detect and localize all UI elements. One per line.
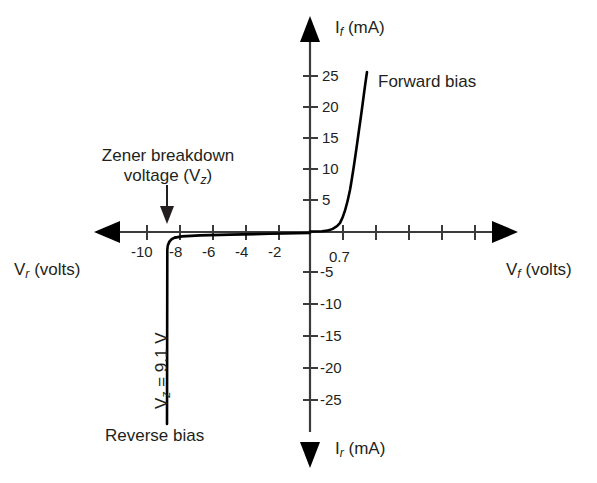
iv-plot-canvas [0,0,597,483]
y-tick-label-minus-20: -20 [320,359,342,377]
y-tick-label-minus-15: -15 [320,327,342,345]
x-tick-label-minus-4: -4 [235,243,248,261]
y-tick-label-20: 20 [322,98,339,116]
if-unit: (mA) [348,18,385,37]
x-tick-label-knee-0-7: 0.7 [329,248,350,266]
y-tick-label-5: 5 [322,191,330,209]
x-axis-right-label: Vf (volts) [506,260,572,282]
axis-arrow-up [300,16,320,42]
zener-annotation-line2: voltage (Vz) [62,166,274,188]
forward-bias-annotation: Forward bias [378,72,476,92]
iv-characteristic-figure: 25 20 15 10 5 -5 -10 -15 -20 -25 -10 -8 … [0,0,597,483]
y-tick-label-minus-10: -10 [320,295,342,313]
vf-subscript: f [517,267,520,281]
y-axis-top-label: If (mA) [335,18,385,40]
x-tick-label-minus-2: -2 [268,243,281,261]
vr-symbol: V [14,260,25,279]
vz-subscript: z [159,392,173,398]
vf-symbol: V [506,260,517,279]
x-tick-label-minus-6: -6 [202,243,215,261]
y-tick-label-minus-25: -25 [320,391,342,409]
axis-arrow-down [300,442,320,468]
y-tick-label-25: 25 [322,67,339,85]
vz-value-text: = 9.1 V [152,332,171,391]
y-tick-label-15: 15 [322,129,339,147]
ir-subscript: r [340,446,344,460]
x-axis-left-label: Vr (volts) [14,260,80,282]
x-tick-label-minus-10: -10 [131,243,153,261]
reverse-leakage-branch [175,233,310,238]
vz-symbol: V [152,398,171,409]
zener-voltage-text: voltage (V [124,166,201,185]
vz-value-annotation: Vz = 9.1 V [152,332,174,409]
zener-annotation-line1: Zener breakdown [62,146,274,166]
if-subscript: f [340,25,343,39]
zener-annotation-arrow [160,185,174,224]
vr-unit: (volts) [34,260,80,279]
vr-subscript: r [25,267,29,281]
zener-voltage-paren: ) [207,166,213,185]
forward-bias-branch [310,72,367,232]
x-tick-label-minus-8: -8 [169,243,182,261]
zener-breakdown-annotation: Zener breakdown voltage (Vz) [62,146,274,188]
ir-unit: (mA) [349,439,386,458]
reverse-bias-annotation: Reverse bias [105,426,204,446]
vf-unit: (volts) [525,260,571,279]
axis-arrow-right [492,221,518,243]
y-axis-bottom-label: Ir (mA) [335,439,385,461]
y-tick-label-10: 10 [322,160,339,178]
axis-arrow-left [94,221,120,243]
